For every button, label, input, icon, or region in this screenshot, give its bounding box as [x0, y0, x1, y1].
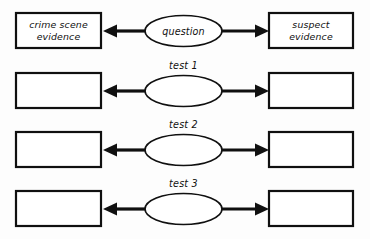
- row-label-test-3: test 3: [169, 178, 198, 189]
- center-ellipse-test-3[interactable]: [145, 194, 222, 225]
- arrow-head-left: [103, 25, 117, 38]
- row-label-test-1: test 1: [169, 60, 198, 71]
- diagram-row-test-1: test 1: [16, 60, 353, 108]
- arrow-head-right: [255, 203, 269, 216]
- row-label-test-2: test 2: [169, 119, 198, 130]
- left-answer-box-test-3[interactable]: [16, 191, 101, 226]
- arrow-head-right: [255, 25, 269, 38]
- diagram-row-test-3: test 3: [16, 178, 353, 226]
- arrow-head-left: [103, 85, 117, 98]
- right-answer-box-test-3[interactable]: [269, 191, 353, 226]
- arrow-head-left: [103, 144, 117, 157]
- arrow-head-left: [103, 203, 117, 216]
- arrow-right-row-question: [222, 25, 269, 38]
- arrow-left-row-test-3: [103, 203, 145, 216]
- center-ellipse-test-2[interactable]: [145, 135, 222, 166]
- arrow-right-row-test-1: [222, 85, 269, 98]
- diagram-row-test-2: test 2: [16, 119, 353, 167]
- right-evidence-box-label-line1: suspect: [292, 19, 329, 30]
- arrow-right-row-test-3: [222, 203, 269, 216]
- arrow-left-row-question: [103, 25, 145, 38]
- arrow-left-row-test-2: [103, 144, 145, 157]
- diagram-row-question: crime scene evidence suspect evidence qu…: [16, 13, 353, 48]
- right-answer-box-test-1[interactable]: [269, 73, 353, 108]
- arrow-right-row-test-2: [222, 144, 269, 157]
- left-evidence-box-label-line2: evidence: [37, 31, 81, 42]
- diagram-svg: crime scene evidence suspect evidence qu…: [0, 0, 370, 239]
- left-answer-box-test-2[interactable]: [16, 132, 101, 167]
- arrow-head-right: [255, 144, 269, 157]
- right-evidence-box-label-line2: evidence: [289, 31, 333, 42]
- center-question-ellipse-label: question: [162, 26, 205, 37]
- arrow-left-row-test-1: [103, 85, 145, 98]
- arrow-head-right: [255, 85, 269, 98]
- center-ellipse-test-1[interactable]: [145, 76, 222, 107]
- left-evidence-box-label-line1: crime scene: [29, 19, 88, 30]
- diagram-canvas: crime scene evidence suspect evidence qu…: [0, 0, 370, 239]
- right-answer-box-test-2[interactable]: [269, 132, 353, 167]
- left-answer-box-test-1[interactable]: [16, 73, 101, 108]
